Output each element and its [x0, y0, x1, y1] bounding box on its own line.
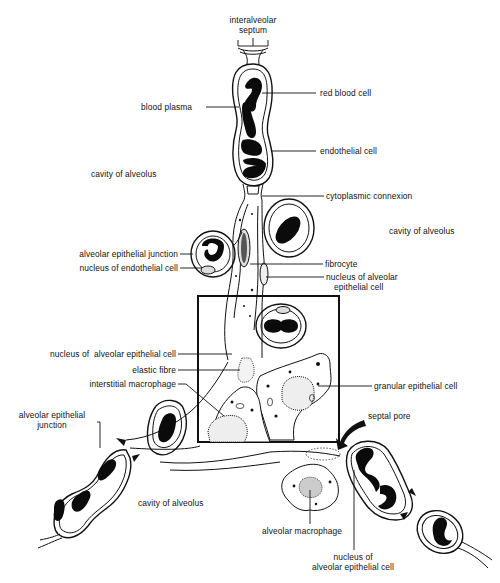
label-blood-plasma: blood plasma — [141, 102, 192, 112]
label-line-1: nucleus of — [302, 552, 404, 562]
label-granular-epithelial-cell: granular epithelial cell — [374, 381, 457, 391]
label-nucleus-of-endothelial-cell: nucleus of endothelial cell — [42, 263, 178, 273]
label-cytoplasmic-connexion: cytoplasmic connexion — [326, 191, 412, 201]
label-nucleus-of-alveolar-epithelial-cell-bottom: nucleus of alveolar epithelial cell — [302, 552, 404, 572]
top-stalk — [238, 48, 268, 64]
label-alveolar-epithelial-junction-lower: alveolar epithelial junction — [10, 410, 94, 430]
label-cavity-of-alveolus-upper-left: cavity of alveolus — [91, 169, 157, 179]
left-capillary-bottom — [38, 450, 131, 548]
junction-arrow-icon — [132, 454, 140, 462]
left-capillary-lower — [147, 400, 186, 454]
label-septal-pore: septal pore — [368, 411, 411, 421]
elastic-fibre-shape — [238, 358, 254, 382]
central-column — [225, 200, 268, 360]
label-cavity-of-alveolus-bottom: cavity of alveolus — [138, 498, 204, 508]
label-line-1: nucleus of alveolar — [326, 272, 398, 282]
label-interstitial-macrophage: interstitial macrophage — [46, 379, 176, 389]
label-elastic-fibre: elastic fibre — [76, 365, 176, 375]
label-line-2: epithelial cell — [326, 282, 398, 292]
label-nucleus-of-alveolar-epithelial-cell-left: nucleus of alveolar epithelial cell — [10, 349, 176, 359]
septum-diagram — [0, 0, 500, 583]
right-capillary-upper — [264, 199, 314, 257]
boxed-capillary — [256, 304, 306, 348]
label-fibrocyte: fibrocyte — [325, 259, 358, 269]
label-alveolar-macrophage: alveolar macrophage — [262, 526, 342, 536]
label-line-1: alveolar epithelial — [10, 410, 94, 420]
septum-bracket — [238, 38, 268, 46]
label-line-2: alveolar epithelial cell — [302, 562, 404, 572]
label-line-2: junction — [10, 420, 94, 430]
left-capillary-upper — [191, 231, 242, 277]
upper-capillary — [233, 64, 273, 186]
capillary-neck — [243, 184, 263, 200]
label-alveolar-epithelial-junction-upper: alveolar epithelial junction — [52, 249, 178, 259]
pore-arrow-icon — [408, 488, 416, 496]
right-capillary-small — [409, 502, 492, 568]
label-text: interalveolar septum — [230, 15, 277, 35]
septal-pore-arrow-icon — [336, 420, 366, 450]
junction-arrow-icon — [116, 438, 126, 446]
label-red-blood-cell: red blood cell — [320, 88, 371, 98]
label-endothelial-cell: endothelial cell — [320, 146, 377, 156]
right-capillary-big — [346, 441, 412, 520]
label-interalveolar-septum: interalveolar septum — [220, 15, 286, 35]
granular-epithelial-cell — [257, 353, 331, 440]
label-nucleus-of-alveolar-epithelial-cell-right: nucleus of alveolar epithelial cell — [326, 272, 398, 292]
label-cavity-of-alveolus-right: cavity of alveolus — [389, 226, 455, 236]
